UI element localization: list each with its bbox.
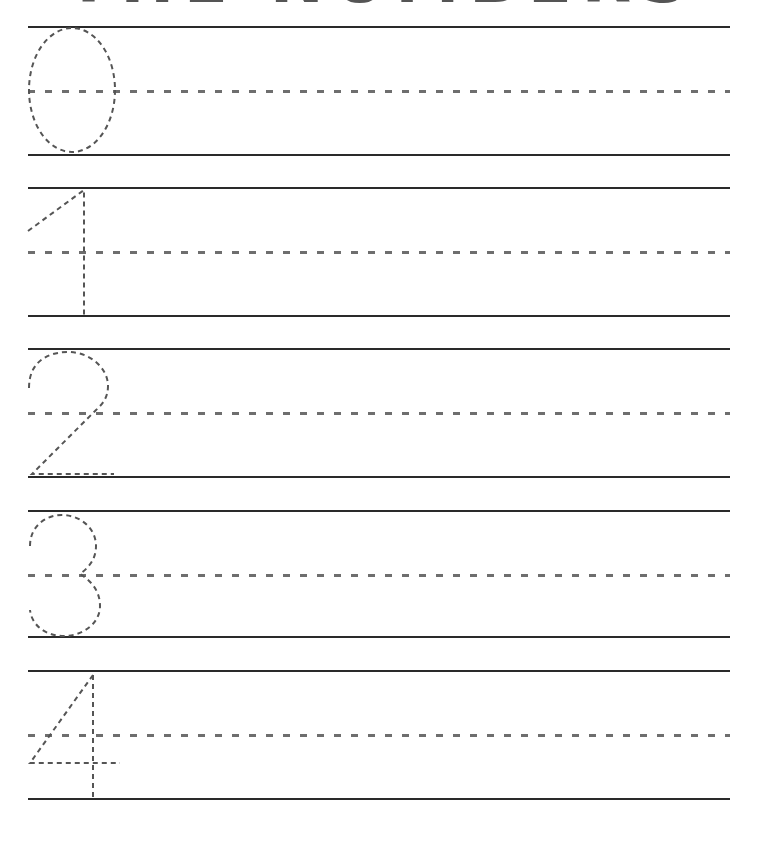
traceable-digit-0: Trace the number 0 <box>28 26 148 156</box>
writing-row-4[interactable]: Trace the number 4 <box>28 670 730 802</box>
writing-row-3[interactable]: Trace the number 3 <box>28 510 730 640</box>
writing-row-2[interactable]: Trace the number 2 <box>28 348 730 478</box>
writing-row-1[interactable]: Trace the number 1 <box>28 187 730 317</box>
traceable-digit-4: Trace the number 4 <box>28 670 148 802</box>
traceable-digit-3: Trace the number 3 <box>28 510 148 640</box>
handwriting-worksheet: THE NUMBERS Trace the number 0 Trace the… <box>0 0 764 845</box>
writing-row-0[interactable]: Trace the number 0 <box>28 26 730 156</box>
worksheet-title: THE NUMBERS <box>0 0 764 12</box>
traceable-digit-1: Trace the number 1 <box>28 187 148 317</box>
traceable-digit-2: Trace the number 2 <box>28 348 148 478</box>
